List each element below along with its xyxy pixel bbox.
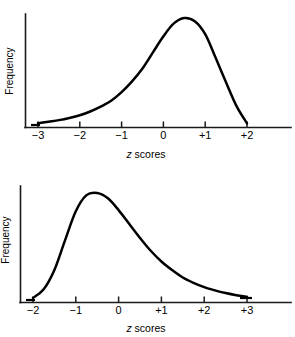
x-axis-title-top-text: scores — [132, 148, 166, 160]
plot-area-top: Frequency −3 −2 −1 0 +1 +2 z scores — [0, 0, 295, 170]
distribution-curve-top — [38, 18, 247, 123]
x-axis-title-bottom: z scores — [125, 322, 165, 334]
plot-area-bottom: Frequency −2 −1 0 +1 +2 +3 z scores — [0, 170, 295, 337]
chart-negatively-skewed: Frequency −3 −2 −1 0 +1 +2 z scores — [0, 0, 295, 170]
x-tick-label-bottom-2: 0 — [116, 304, 122, 316]
x-tick-label-bottom-4: +2 — [198, 304, 211, 316]
x-axis-title-top: z scores — [125, 148, 165, 160]
y-axis-title-bottom: Frequency — [0, 216, 11, 263]
x-tick-label-top-3: 0 — [160, 129, 166, 141]
distribution-curve-bottom — [33, 193, 247, 298]
x-axis-title-bottom-text: scores — [132, 322, 166, 334]
x-tick-label-bottom-0: −2 — [27, 304, 40, 316]
x-tick-label-bottom-5: +3 — [241, 304, 254, 316]
x-tick-label-top-2: −1 — [115, 129, 128, 141]
x-tick-label-bottom-1: −1 — [70, 304, 83, 316]
x-tick-label-top-1: −2 — [74, 129, 87, 141]
y-axis-title-top: Frequency — [4, 47, 15, 94]
x-tick-label-top-4: +1 — [199, 129, 212, 141]
x-tick-label-top-5: +2 — [241, 129, 254, 141]
chart-positively-skewed: Frequency −2 −1 0 +1 +2 +3 z scores — [0, 170, 295, 337]
x-tick-label-bottom-3: +1 — [155, 304, 168, 316]
x-tick-label-top-0: −3 — [32, 129, 45, 141]
